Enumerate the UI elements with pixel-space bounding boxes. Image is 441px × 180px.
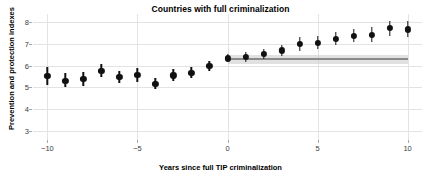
x-tick-mark--5 (137, 140, 138, 143)
y-tick-mark-4 (29, 109, 32, 110)
y-tick-label-8: 8 (0, 17, 29, 26)
x-axis-label: Years since full TIP criminalization (0, 163, 441, 172)
x-tick-mark-0 (228, 140, 229, 143)
y-tick-label-6: 6 (0, 61, 29, 70)
data-point (188, 69, 194, 75)
data-point (134, 72, 140, 78)
data-point (296, 41, 302, 47)
data-point (80, 76, 86, 82)
data-point (350, 33, 356, 39)
x-tick-mark--10 (47, 140, 48, 143)
y-tick-mark-5 (29, 87, 32, 88)
data-point (170, 72, 176, 78)
x-tick-label--10: −10 (27, 144, 67, 153)
data-point (62, 78, 68, 84)
y-tick-mark-6 (29, 66, 32, 67)
data-point (314, 40, 320, 46)
x-tick-label-5: 5 (298, 144, 338, 153)
data-point (278, 47, 284, 53)
chart-title: Countries with full criminalization (0, 4, 441, 14)
plot-area: 345678 −10−50510 (33, 14, 422, 140)
data-point (332, 36, 338, 42)
y-tick-mark-7 (29, 44, 32, 45)
gridline-x-5 (318, 14, 319, 140)
data-point (386, 25, 392, 31)
y-tick-label-3: 3 (0, 127, 29, 136)
data-point (152, 81, 158, 87)
chart-figure: Countries with full criminalization Prev… (0, 0, 441, 180)
data-point (404, 26, 410, 32)
data-point (98, 68, 104, 74)
x-tick-mark-5 (318, 140, 319, 143)
x-tick-label-0: 0 (208, 144, 248, 153)
y-tick-mark-8 (29, 22, 32, 23)
y-tick-label-5: 5 (0, 83, 29, 92)
x-tick-label--5: −5 (117, 144, 157, 153)
data-point (368, 32, 374, 38)
y-tick-label-4: 4 (0, 105, 29, 114)
x-tick-mark-10 (408, 140, 409, 143)
gridline-x-0 (228, 14, 229, 140)
reference-mean-line (228, 58, 408, 60)
y-tick-label-7: 7 (0, 39, 29, 48)
x-tick-label-10: 10 (388, 144, 428, 153)
data-point (44, 73, 50, 79)
data-point (116, 74, 122, 80)
data-point (206, 63, 212, 69)
y-tick-mark-3 (29, 131, 32, 132)
